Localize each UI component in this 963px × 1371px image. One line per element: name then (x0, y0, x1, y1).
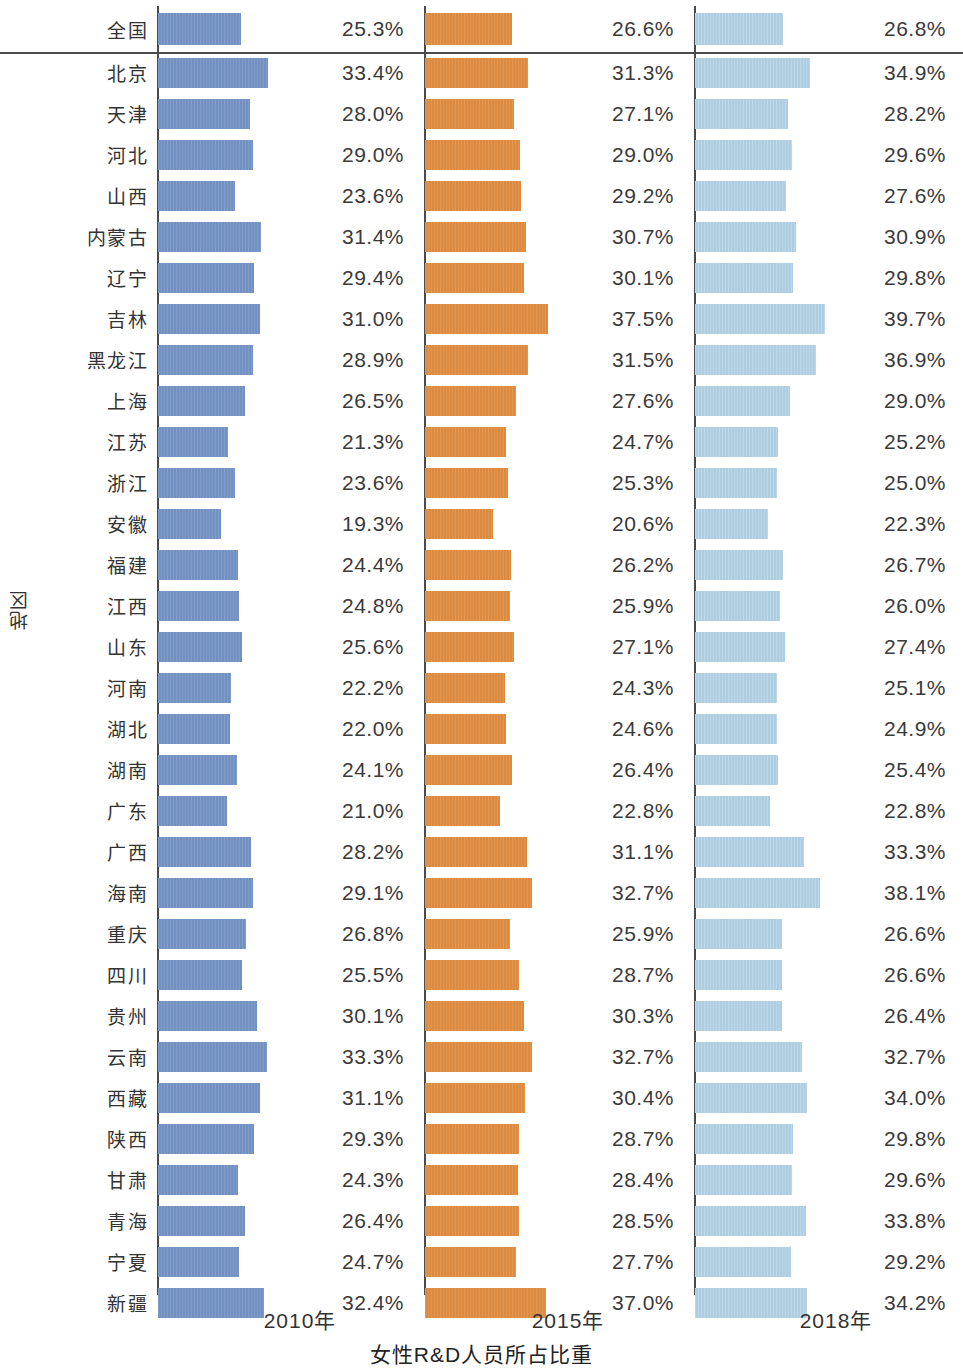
category-label: 宁夏 (48, 1241, 148, 1282)
value-label: 25.2% (800, 421, 946, 462)
bar-rect (425, 673, 505, 703)
category-label: 安徽 (48, 503, 148, 544)
bar-rect (425, 222, 526, 252)
category-label: 甘肃 (48, 1159, 148, 1200)
bar-2018年 (695, 257, 793, 298)
bar-rect (158, 1042, 267, 1072)
bar-2018年 (695, 134, 792, 175)
value-label: 38.1% (800, 872, 946, 913)
category-label: 北京 (48, 52, 148, 93)
bar-2010年 (158, 503, 221, 544)
bar-2018年 (695, 380, 790, 421)
bar-row: 广东21.0%22.8%22.8% (0, 790, 963, 831)
value-label: 29.1% (258, 872, 404, 913)
value-label: 28.4% (528, 1159, 674, 1200)
value-label: 28.7% (528, 954, 674, 995)
value-label: 30.4% (528, 1077, 674, 1118)
bar-rows: 全国25.3%26.6%26.8%北京33.4%31.3%34.9%天津28.0… (0, 6, 963, 1323)
value-label: 28.5% (528, 1200, 674, 1241)
bar-rect (425, 386, 516, 416)
bar-2015年 (425, 831, 527, 872)
bar-rect (158, 960, 242, 990)
value-label: 31.3% (528, 52, 674, 93)
bar-row: 山西23.6%29.2%27.6% (0, 175, 963, 216)
bar-rect (425, 796, 500, 826)
bar-2015年 (425, 708, 506, 749)
bar-row: 海南29.1%32.7%38.1% (0, 872, 963, 913)
bar-2018年 (695, 462, 777, 503)
bar-2010年 (158, 913, 246, 954)
bar-row: 江西24.8%25.9%26.0% (0, 585, 963, 626)
bar-rect (158, 468, 235, 498)
value-label: 24.7% (528, 421, 674, 462)
bar-rect (695, 181, 786, 211)
bar-rect (425, 1165, 518, 1195)
bar-rect (695, 1165, 792, 1195)
bar-2018年 (695, 1200, 806, 1241)
bar-2015年 (425, 339, 528, 380)
bar-2010年 (158, 52, 268, 93)
value-label: 29.8% (800, 257, 946, 298)
value-label: 30.1% (528, 257, 674, 298)
bar-2018年 (695, 831, 804, 872)
bar-2015年 (425, 421, 506, 462)
bar-row: 福建24.4%26.2%26.7% (0, 544, 963, 585)
value-label: 25.9% (528, 585, 674, 626)
bar-2018年 (695, 339, 816, 380)
bar-rect (158, 1001, 257, 1031)
bar-row: 河南22.2%24.3%25.1% (0, 667, 963, 708)
value-label: 34.9% (800, 52, 946, 93)
bar-2015年 (425, 1159, 518, 1200)
bar-rect (695, 509, 768, 539)
bar-2010年 (158, 93, 250, 134)
bar-rect (158, 58, 268, 88)
bar-2010年 (158, 667, 231, 708)
bar-rect (158, 99, 250, 129)
bar-rect (425, 345, 528, 375)
bar-rect (158, 304, 260, 334)
bar-rect (158, 345, 253, 375)
bar-row: 云南33.3%32.7%32.7% (0, 1036, 963, 1077)
bar-2010年 (158, 790, 227, 831)
value-label: 24.8% (258, 585, 404, 626)
category-label: 广西 (48, 831, 148, 872)
value-label: 25.3% (258, 6, 404, 52)
bar-rect (158, 386, 245, 416)
value-label: 29.0% (258, 134, 404, 175)
bar-row: 上海26.5%27.6%29.0% (0, 380, 963, 421)
bar-2015年 (425, 585, 510, 626)
bar-2015年 (425, 6, 512, 52)
bar-2018年 (695, 1118, 793, 1159)
bar-row: 吉林31.0%37.5%39.7% (0, 298, 963, 339)
bar-rect (425, 427, 506, 457)
bar-rect (695, 919, 782, 949)
bar-2015年 (425, 995, 524, 1036)
value-label: 29.2% (800, 1241, 946, 1282)
bar-2018年 (695, 995, 782, 1036)
bar-2018年 (695, 175, 786, 216)
value-label: 27.1% (528, 626, 674, 667)
bar-2018年 (695, 667, 777, 708)
bar-row: 内蒙古31.4%30.7%30.9% (0, 216, 963, 257)
bar-rect (695, 1042, 802, 1072)
bar-rect (695, 1083, 807, 1113)
value-label: 26.5% (258, 380, 404, 421)
value-label: 29.0% (528, 134, 674, 175)
bar-rect (425, 837, 527, 867)
bar-row: 黑龙江28.9%31.5%36.9% (0, 339, 963, 380)
bar-2018年 (695, 1159, 792, 1200)
value-label: 30.3% (528, 995, 674, 1036)
value-label: 31.1% (528, 831, 674, 872)
bar-rect (425, 919, 510, 949)
bar-rect (158, 1165, 238, 1195)
bar-2018年 (695, 790, 770, 831)
bar-rect (158, 919, 246, 949)
value-label: 22.2% (258, 667, 404, 708)
bar-rect (158, 755, 237, 785)
value-label: 33.4% (258, 52, 404, 93)
value-label: 27.1% (528, 93, 674, 134)
value-label: 30.9% (800, 216, 946, 257)
category-label: 新疆 (48, 1282, 148, 1323)
bar-2018年 (695, 954, 782, 995)
bar-rect (425, 591, 510, 621)
